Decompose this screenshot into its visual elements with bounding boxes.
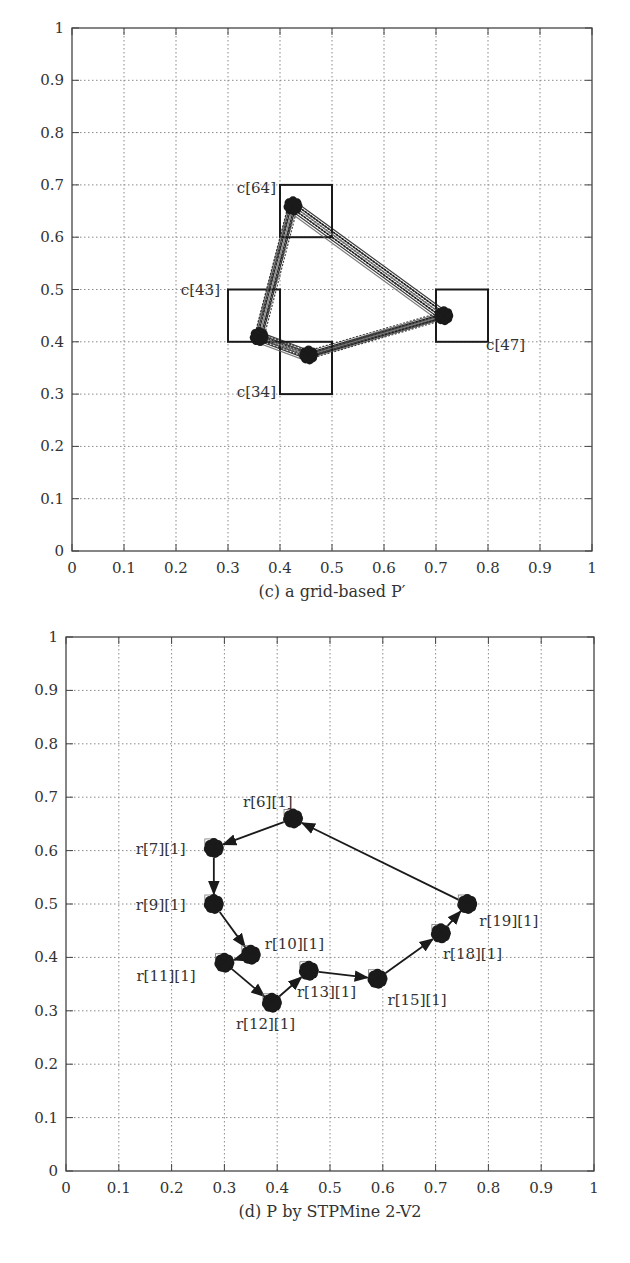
cluster-marker (368, 969, 388, 989)
chart-p-by-stpmine: 00.10.20.30.40.50.60.70.80.9100.10.20.30… (0, 0, 630, 1263)
edge-arrow (386, 939, 433, 973)
cluster-marker (299, 961, 319, 981)
x-tick-label: 0.7 (424, 1179, 448, 1197)
x-tick-label: 0.9 (529, 1179, 553, 1197)
edge-arrow (302, 823, 458, 900)
edge-arrow (448, 911, 461, 925)
y-tick-label: 0.5 (34, 895, 58, 913)
chart-caption: (d) P by STPMine 2-V2 (239, 1202, 422, 1221)
cluster-marker (283, 809, 303, 829)
cluster-marker (214, 953, 234, 973)
region-label: r[15][1] (388, 991, 447, 1009)
edges (214, 822, 461, 996)
region-label: r[19][1] (479, 912, 538, 930)
x-tick-label: 0.1 (107, 1179, 131, 1197)
edge-arrow (319, 972, 368, 978)
x-tick-label: 0.2 (160, 1179, 184, 1197)
y-tick-label: 0.6 (34, 842, 58, 860)
region-label: r[10][1] (265, 935, 324, 953)
y-tick-label: 0.2 (34, 1055, 58, 1073)
y-tick-label: 0 (48, 1162, 58, 1180)
x-tick-label: 0.6 (371, 1179, 395, 1197)
x-tick-label: 0.4 (265, 1179, 289, 1197)
edge-arrow (220, 912, 245, 947)
y-tick-label: 0.8 (34, 735, 58, 753)
x-tick-label: 0.5 (318, 1179, 342, 1197)
y-tick-label: 0.4 (34, 948, 58, 966)
cluster-marker (262, 993, 282, 1013)
x-tick-label: 0.8 (476, 1179, 500, 1197)
y-tick-label: 1 (48, 628, 58, 646)
region-label: r[12][1] (236, 1015, 295, 1033)
y-tick-label: 0.7 (34, 788, 58, 806)
region-label: r[7][1] (136, 840, 186, 858)
cluster-marker (431, 923, 451, 943)
x-tick-label: 0 (61, 1179, 71, 1197)
y-tick-label: 0.1 (34, 1109, 58, 1127)
region-label: r[9][1] (136, 896, 186, 914)
region-label: r[11][1] (136, 967, 195, 985)
cluster-marker (204, 894, 224, 914)
x-tick-label: 0.3 (212, 1179, 236, 1197)
edge-arrow (234, 958, 241, 960)
cluster-marker (457, 894, 477, 914)
x-tick-label: 1 (589, 1179, 599, 1197)
region-label: r[6][1] (243, 793, 293, 811)
y-tick-label: 0.3 (34, 1002, 58, 1020)
edge-arrow (232, 969, 264, 996)
cluster-marker (204, 838, 224, 858)
cluster-marker (241, 945, 261, 965)
region-label: r[13][1] (297, 983, 356, 1001)
edge-arrow (223, 822, 283, 844)
y-tick-label: 0.9 (34, 681, 58, 699)
region-label: r[18][1] (443, 945, 502, 963)
